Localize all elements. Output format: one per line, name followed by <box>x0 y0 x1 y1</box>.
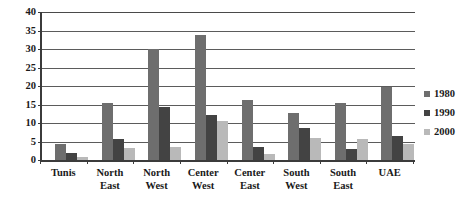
y-axis-tick-labels: 4035302520151050 <box>8 12 36 160</box>
bar-2000-north-east <box>124 148 135 160</box>
bar-1980-north-east <box>102 103 113 160</box>
bar-1980-uae <box>381 87 392 160</box>
x-axis-label-line: East <box>320 180 367 193</box>
x-axis-label-tunis: Tunis <box>40 167 87 192</box>
x-axis-label-line: Center <box>180 167 227 180</box>
bar-cluster <box>229 12 276 160</box>
bar-1980-tunis <box>55 144 66 160</box>
plot-area <box>40 12 415 162</box>
bar-1980-south-west <box>288 113 299 160</box>
bar-1990-center-east <box>253 147 264 160</box>
bar-1990-center-west <box>206 115 217 161</box>
legend-label-2000: 2000 <box>434 126 455 137</box>
y-axis-tick-label: 10 <box>12 118 36 128</box>
x-axis-tick-mark <box>87 160 88 164</box>
y-axis-tick-label: 0 <box>12 155 36 165</box>
bar-1980-south-east <box>335 103 346 160</box>
x-axis-tick-mark <box>273 160 274 164</box>
y-axis-tick-label: 40 <box>12 7 36 17</box>
x-axis-label-line: South <box>273 167 320 180</box>
x-axis-label-line: West <box>180 180 227 193</box>
x-axis-label-line: East <box>227 180 274 193</box>
x-axis-label-line: West <box>133 180 180 193</box>
bar-1990-north-east <box>113 139 124 160</box>
x-axis-tick-mark <box>133 160 134 164</box>
legend-swatch-1980 <box>424 91 430 97</box>
x-axis-label-north-east: NorthEast <box>87 167 134 192</box>
legend-item-2000: 2000 <box>424 122 474 141</box>
y-axis-tick-label: 35 <box>12 26 36 36</box>
y-axis-tick-label: 30 <box>12 44 36 54</box>
bar-cluster <box>275 12 322 160</box>
bar-1980-north-west <box>148 49 159 160</box>
x-axis-label-line: Tunis <box>40 167 87 180</box>
x-axis-label-center-east: CenterEast <box>227 167 274 192</box>
x-axis-label-center-west: CenterWest <box>180 167 227 192</box>
legend-label-1980: 1980 <box>434 88 455 99</box>
x-axis-label-south-east: SouthEast <box>320 167 367 192</box>
x-axis-label-line: East <box>87 180 134 193</box>
bar-1990-north-west <box>159 107 170 160</box>
bar-1990-south-east <box>346 149 357 160</box>
bar-chart: 4035302520151050 TunisNorthEastNorthWest… <box>0 0 474 203</box>
legend-item-1980: 1980 <box>424 84 474 103</box>
bar-cluster <box>135 12 182 160</box>
bar-1980-center-east <box>242 100 253 160</box>
bar-cluster <box>89 12 136 160</box>
bar-1980-center-west <box>195 35 206 160</box>
bar-1990-uae <box>392 136 403 160</box>
x-axis-tick-mark <box>366 160 367 164</box>
y-axis-tick-label: 25 <box>12 63 36 73</box>
legend-swatch-2000 <box>424 129 430 135</box>
x-axis-category-labels: TunisNorthEastNorthWestCenterWestCenterE… <box>40 167 413 192</box>
bar-1990-south-west <box>299 128 310 160</box>
bar-2000-center-west <box>217 121 228 160</box>
x-axis-label-line: Center <box>227 167 274 180</box>
x-axis-label-line: South <box>320 167 367 180</box>
bar-cluster <box>42 12 89 160</box>
bar-cluster <box>368 12 415 160</box>
y-axis-tick-label: 20 <box>12 81 36 91</box>
x-axis-tick-mark <box>413 160 414 164</box>
x-axis-tick-mark <box>180 160 181 164</box>
x-axis-label-uae: UAE <box>366 167 413 192</box>
x-axis-label-north-west: NorthWest <box>133 167 180 192</box>
bar-2000-south-west <box>310 138 321 160</box>
x-axis-tick-mark <box>227 160 228 164</box>
y-axis-tick-label: 15 <box>12 100 36 110</box>
chart-legend: 198019902000 <box>424 84 474 141</box>
x-axis-label-line: North <box>133 167 180 180</box>
legend-swatch-1990 <box>424 110 430 116</box>
bar-cluster <box>182 12 229 160</box>
bar-2000-north-west <box>170 147 181 160</box>
x-axis-tick-marks <box>40 160 415 165</box>
y-axis-tick-label: 5 <box>12 137 36 147</box>
x-axis-tick-mark <box>40 160 41 164</box>
legend-label-1990: 1990 <box>434 107 455 118</box>
x-axis-tick-mark <box>320 160 321 164</box>
x-axis-label-line: West <box>273 180 320 193</box>
bar-1990-tunis <box>66 153 77 160</box>
bar-2000-uae <box>403 144 414 160</box>
x-axis-label-line: UAE <box>366 167 413 180</box>
x-axis-label-line: North <box>87 167 134 180</box>
bar-cluster <box>322 12 369 160</box>
bar-2000-south-east <box>357 139 368 160</box>
bar-clusters <box>42 12 415 160</box>
legend-item-1990: 1990 <box>424 103 474 122</box>
x-axis-label-south-west: SouthWest <box>273 167 320 192</box>
